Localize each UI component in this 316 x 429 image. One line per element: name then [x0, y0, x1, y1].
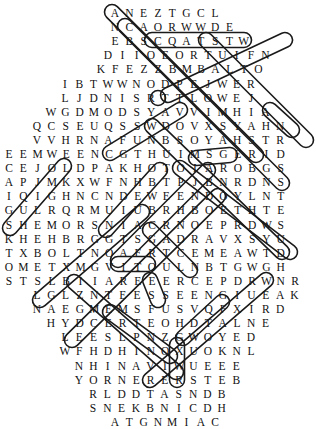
letter-cell[interactable]: V	[102, 260, 116, 274]
letter-cell[interactable]: E	[229, 359, 243, 373]
letter-cell[interactable]: R	[144, 91, 158, 105]
letter-cell[interactable]: W	[237, 34, 251, 48]
letter-cell[interactable]: M	[165, 415, 179, 429]
letter-cell[interactable]: T	[222, 34, 236, 48]
letter-cell[interactable]: W	[58, 344, 72, 358]
letter-cell[interactable]: G	[259, 260, 273, 274]
letter-cell[interactable]: M	[180, 62, 194, 76]
letter-cell[interactable]: I	[116, 260, 130, 274]
letter-cell[interactable]: U	[87, 119, 101, 133]
letter-cell[interactable]: D	[158, 77, 172, 91]
letter-cell[interactable]: X	[74, 175, 88, 189]
letter-cell[interactable]: S	[159, 288, 173, 302]
letter-cell[interactable]: A	[159, 232, 173, 246]
letter-cell[interactable]: I	[180, 415, 194, 429]
letter-cell[interactable]: E	[202, 218, 216, 232]
letter-cell[interactable]: C	[2, 161, 16, 175]
letter-cell[interactable]: U	[187, 344, 201, 358]
letter-cell[interactable]: G	[216, 288, 230, 302]
letter-cell[interactable]: E	[201, 359, 215, 373]
letter-cell[interactable]: D	[187, 316, 201, 330]
letter-cell[interactable]: E	[145, 274, 159, 288]
letter-cell[interactable]: I	[172, 401, 186, 415]
letter-cell[interactable]: R	[245, 274, 259, 288]
letter-cell[interactable]: E	[102, 302, 116, 316]
letter-cell[interactable]: I	[130, 48, 144, 62]
letter-cell[interactable]: N	[130, 77, 144, 91]
letter-cell[interactable]: T	[194, 34, 208, 48]
letter-cell[interactable]: O	[102, 246, 116, 260]
letter-cell[interactable]: K	[59, 175, 73, 189]
letter-cell[interactable]: Q	[202, 302, 216, 316]
letter-cell[interactable]: E	[31, 232, 45, 246]
letter-cell[interactable]: L	[208, 6, 222, 20]
letter-cell[interactable]: U	[159, 302, 173, 316]
letter-cell[interactable]: B	[159, 133, 173, 147]
letter-cell[interactable]: M	[16, 260, 30, 274]
letter-cell[interactable]: R	[187, 48, 201, 62]
letter-cell[interactable]: T	[259, 133, 273, 147]
letter-cell[interactable]: P	[217, 218, 231, 232]
letter-cell[interactable]: I	[101, 359, 115, 373]
letter-cell[interactable]: O	[217, 189, 231, 203]
letter-cell[interactable]: H	[131, 175, 145, 189]
letter-cell[interactable]: R	[172, 373, 186, 387]
letter-cell[interactable]: O	[144, 48, 158, 62]
letter-cell[interactable]: S	[202, 147, 216, 161]
letter-cell[interactable]: N	[122, 6, 136, 20]
letter-cell[interactable]: C	[174, 246, 188, 260]
letter-cell[interactable]: R	[244, 77, 258, 91]
letter-cell[interactable]: K	[116, 161, 130, 175]
letter-cell[interactable]: R	[174, 274, 188, 288]
letter-cell[interactable]: Z	[73, 288, 87, 302]
letter-cell[interactable]: O	[145, 161, 159, 175]
letter-cell[interactable]: D	[101, 344, 115, 358]
letter-cell[interactable]: S	[131, 232, 145, 246]
letter-cell[interactable]: F	[102, 175, 116, 189]
letter-cell[interactable]: X	[172, 344, 186, 358]
letter-cell[interactable]: R	[86, 387, 100, 401]
letter-cell[interactable]: D	[73, 105, 87, 119]
letter-cell[interactable]: S	[88, 218, 102, 232]
letter-cell[interactable]: D	[159, 119, 173, 133]
letter-cell[interactable]: D	[116, 189, 130, 203]
letter-cell[interactable]: F	[72, 344, 86, 358]
letter-cell[interactable]: R	[74, 203, 88, 217]
letter-cell[interactable]: D	[116, 105, 130, 119]
letter-cell[interactable]: E	[59, 147, 73, 161]
letter-cell[interactable]: S	[130, 91, 144, 105]
letter-cell[interactable]: S	[2, 274, 16, 288]
letter-cell[interactable]: F	[116, 133, 130, 147]
letter-cell[interactable]: D	[231, 274, 245, 288]
letter-cell[interactable]: B	[215, 387, 229, 401]
letter-cell[interactable]: J	[72, 91, 86, 105]
letter-cell[interactable]: N	[186, 387, 200, 401]
letter-cell[interactable]: V	[187, 119, 201, 133]
letter-cell[interactable]: C	[102, 147, 116, 161]
letter-cell[interactable]: H	[16, 232, 30, 246]
letter-cell[interactable]: E	[130, 288, 144, 302]
letter-cell[interactable]: I	[188, 161, 202, 175]
letter-cell[interactable]: Z	[158, 330, 172, 344]
letter-cell[interactable]: S	[173, 133, 187, 147]
letter-cell[interactable]: V	[217, 232, 231, 246]
letter-cell[interactable]: E	[59, 302, 73, 316]
letter-cell[interactable]: N	[259, 175, 273, 189]
letter-cell[interactable]: E	[159, 189, 173, 203]
letter-cell[interactable]: C	[188, 274, 202, 288]
letter-cell[interactable]: L	[230, 316, 244, 330]
letter-cell[interactable]: Y	[259, 232, 273, 246]
letter-cell[interactable]: L	[100, 387, 114, 401]
letter-cell[interactable]: E	[16, 161, 30, 175]
letter-cell[interactable]: I	[74, 274, 88, 288]
letter-cell[interactable]: E	[188, 246, 202, 260]
letter-cell[interactable]: J	[31, 161, 45, 175]
letter-cell[interactable]: P	[172, 77, 186, 91]
letter-cell[interactable]: Q	[16, 189, 30, 203]
letter-cell[interactable]: E	[116, 288, 130, 302]
letter-cell[interactable]: D	[245, 175, 259, 189]
letter-cell[interactable]: B	[72, 77, 86, 91]
letter-cell[interactable]: I	[58, 77, 72, 91]
letter-cell[interactable]: H	[45, 232, 59, 246]
letter-cell[interactable]: D	[273, 302, 287, 316]
